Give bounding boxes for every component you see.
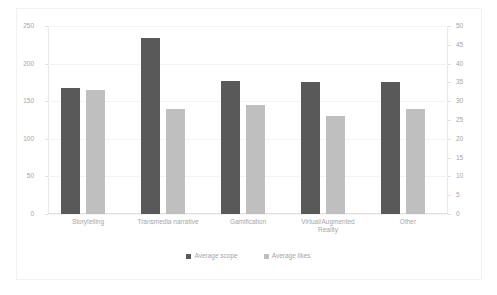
bar-likes <box>326 116 345 214</box>
left-axis-tick-label: 0 <box>0 211 490 218</box>
category-label: Virtual/Augmented Reality <box>288 218 368 234</box>
left-axis-tick-mark <box>45 139 48 140</box>
left-axis-tick-label: 50 <box>0 173 487 180</box>
left-axis-tick-mark <box>45 101 48 102</box>
left-axis-tick-mark <box>45 64 48 65</box>
right-axis-tick-mark <box>448 26 451 27</box>
right-axis-tick-label: 35 <box>456 79 463 86</box>
right-axis-tick-label: 20 <box>456 136 463 143</box>
bar-likes <box>166 109 185 214</box>
right-axis-tick-mark <box>448 158 451 159</box>
legend-label: Average scope <box>194 253 237 260</box>
left-axis-tick-mark <box>45 214 48 215</box>
bar-scope <box>61 88 80 214</box>
bar-likes <box>406 109 425 214</box>
bar-group <box>208 26 288 214</box>
right-axis-tick-label: 5 <box>456 192 460 199</box>
left-axis-tick-mark <box>45 26 48 27</box>
right-axis-tick-mark <box>448 82 451 83</box>
right-axis-tick-mark <box>448 120 451 121</box>
left-axis-tick-label: 250 <box>0 23 483 30</box>
category-label: Transmedia narrative <box>128 218 208 226</box>
right-axis-tick-label: 40 <box>456 61 463 68</box>
legend-entry[interactable]: Average likes <box>264 253 311 260</box>
bar-likes <box>246 105 265 214</box>
left-axis-tick-label: 100 <box>0 136 483 143</box>
category-label: Gamification <box>208 218 288 226</box>
bar-group <box>48 26 128 214</box>
plot-area <box>48 26 448 214</box>
bar-group <box>288 26 368 214</box>
left-axis-tick-label: 200 <box>0 61 483 68</box>
legend-entry[interactable]: Average scope <box>186 253 237 260</box>
right-axis-tick-label: 15 <box>456 155 463 162</box>
right-axis-tick-label: 10 <box>456 173 463 180</box>
right-axis-tick-mark <box>448 214 451 215</box>
left-axis-tick-label: 150 <box>0 98 483 105</box>
right-axis-tick-mark <box>448 176 451 177</box>
right-axis-tick-label: 25 <box>456 117 463 124</box>
right-axis-tick-mark <box>448 139 451 140</box>
right-axis-tick-label: 45 <box>456 42 463 49</box>
right-axis-tick-mark <box>448 64 451 65</box>
legend-swatch-icon <box>264 254 269 259</box>
right-axis-tick-label: 0 <box>456 211 460 218</box>
chart-legend: Average scopeAverage likes <box>0 253 497 260</box>
legend-label: Average likes <box>272 253 311 260</box>
right-axis-tick-mark <box>448 45 451 46</box>
right-axis-tick-label: 50 <box>456 23 463 30</box>
right-axis-tick-mark <box>448 195 451 196</box>
category-axis-labels: StorytellingTransmedia narrativeGamifica… <box>48 218 448 246</box>
left-axis-tick-mark <box>45 176 48 177</box>
right-axis-tick-mark <box>448 101 451 102</box>
bars-layer <box>48 26 448 214</box>
category-label: Storytelling <box>48 218 128 226</box>
right-axis-tick-label: 30 <box>456 98 463 105</box>
bar-likes <box>86 90 105 214</box>
category-label: Other <box>368 218 448 226</box>
bar-chart-figure: 050100150200250 05101520253035404550 Sto… <box>0 0 497 295</box>
legend-swatch-icon <box>186 254 191 259</box>
bar-group <box>368 26 448 214</box>
bar-group <box>128 26 208 214</box>
